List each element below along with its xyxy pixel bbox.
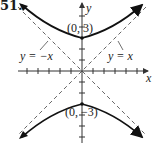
x-axis-label: x: [146, 72, 151, 84]
asymptote-label-pos: y = x: [108, 50, 133, 62]
asymptote-label-neg: y = −x: [20, 50, 53, 62]
y-axis-label: y: [86, 2, 91, 14]
vertex-top-point: [80, 36, 84, 40]
vertex-top-label: (0, 3): [67, 22, 93, 34]
vertex-bottom-label: (0, −3): [65, 106, 98, 118]
x-axis: [18, 68, 148, 74]
hyperbola-figure: 51.: [0, 0, 154, 146]
